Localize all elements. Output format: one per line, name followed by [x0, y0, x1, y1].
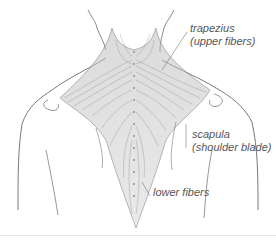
bottom-divider [0, 235, 276, 236]
anatomy-diagram: trapezius (upper fibers) scapula (should… [0, 0, 276, 240]
scapula-label: scapula (shoulder blade) [192, 128, 272, 154]
scapula-label-line1: scapula [192, 128, 272, 141]
neck-left-outline [88, 10, 106, 50]
right-arm-line [204, 150, 212, 218]
lower-fibers-label: lower fibers [153, 186, 209, 199]
trapezius-label-line2: (upper fibers) [190, 35, 255, 48]
trapezius-label-line1: trapezius [190, 22, 255, 35]
left-arm-line [46, 150, 58, 215]
scapula-label-line2: (shoulder blade) [192, 141, 272, 154]
left-scapula-outline [96, 128, 103, 168]
trapezius-label: trapezius (upper fibers) [190, 22, 255, 48]
